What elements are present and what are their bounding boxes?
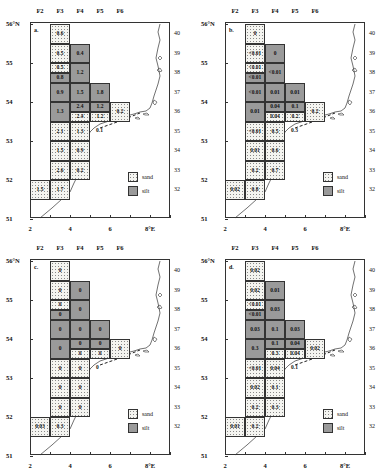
grid-cell-silt: 0 xyxy=(265,44,285,64)
grid-cell-sand: 0 xyxy=(70,349,90,359)
panel-label: c. xyxy=(34,264,38,270)
legend-silt: silt xyxy=(323,423,344,433)
grid-cell-sand: 0 xyxy=(110,339,130,359)
grid-cell-silt: <0.01 xyxy=(245,83,265,103)
grid-cell-sand: 0.3 xyxy=(50,417,70,437)
legend-sand: sand xyxy=(128,172,153,182)
grid-cell-sand: 2.6 xyxy=(50,161,70,181)
grid-cell-sand: 0.2 xyxy=(70,161,90,181)
grid-cell-sand: 0.2 xyxy=(110,102,130,122)
cell-value: 0.3 xyxy=(291,128,298,134)
grid-cell-silt: 0.03 xyxy=(285,320,305,340)
grid-cell-sand: 0.04 xyxy=(265,359,285,379)
cell-value: 0.1 xyxy=(291,365,298,371)
grid-cell-sand: 0.02 xyxy=(245,281,265,301)
grid-cell-silt: 0 xyxy=(50,339,70,359)
grid-cell-sand: 2.1 xyxy=(50,122,70,142)
grid-cell-sand: 0 xyxy=(50,359,70,379)
panel-label: a. xyxy=(34,27,39,33)
silt-swatch xyxy=(128,423,138,433)
grid-cell-silt: 0 xyxy=(50,320,70,340)
grid-cell-silt: <0.01 xyxy=(245,310,265,320)
grid-cell-sand: 0.01 xyxy=(245,141,265,161)
sand-swatch xyxy=(128,409,138,419)
grid-cell-sand: <0.01 xyxy=(245,63,265,73)
legend-silt: silt xyxy=(323,186,344,196)
grid-cell-silt: 0.04 xyxy=(265,102,285,112)
grid-cell-sand: 1.5 xyxy=(50,141,70,161)
grid-cell-sand: <0.01 xyxy=(245,122,265,142)
panel-label: b. xyxy=(229,27,234,33)
grid-cell-sand: 0.3 xyxy=(265,398,285,418)
legend-sand: sand xyxy=(128,409,153,419)
grid-cell-sand: <0.01 xyxy=(245,44,265,64)
grid-cell-sand: 0.02 xyxy=(305,339,325,359)
grid-cell-sand: 0.1 xyxy=(265,378,285,398)
grid-cell-sand: 0 xyxy=(70,378,90,398)
legend-sand-label: sand xyxy=(142,174,153,180)
grid-cell-silt: 0.01 xyxy=(285,83,305,103)
grid-cell-sand: 0 xyxy=(50,398,70,418)
grid-cell-sand: 0 xyxy=(50,281,70,301)
legend-silt-label: silt xyxy=(142,425,149,431)
grid-cell-silt: 0.1 xyxy=(265,320,285,340)
grid-cell-silt: 1.8 xyxy=(90,83,110,103)
grid-cell-silt: 0 xyxy=(70,300,90,320)
grid-cell-sand: 0.6 xyxy=(265,141,285,161)
map-panel-d: F2F3F4F5F656°N55545352514039383736353433… xyxy=(195,237,390,474)
grid-cell-sand: <0.01 xyxy=(245,300,265,310)
grid-cell-silt: 0.01 xyxy=(265,281,285,301)
grid-cell-silt: 0.03 xyxy=(265,300,285,320)
grid-cell-silt: 0.3 xyxy=(245,339,265,359)
grid-cell-silt: 0 xyxy=(90,339,110,349)
sand-swatch xyxy=(323,172,333,182)
grid-cell-sand: 0.6 xyxy=(50,24,70,44)
silt-swatch xyxy=(323,186,333,196)
grid-cell-sand: 1.2 xyxy=(90,112,110,122)
grid-cell-sand: 1.5 xyxy=(30,180,50,200)
grid-cell-sand: 0 xyxy=(70,398,90,418)
map-panel-c: F2F3F4F5F656°N55545352514039383736353433… xyxy=(0,237,195,474)
grid-cell-silt: <0.01 xyxy=(245,73,265,83)
grid-cell-sand: 0.02 xyxy=(245,378,265,398)
grid-cell-silt: 1.2 xyxy=(90,102,110,112)
panel-label: d. xyxy=(229,264,234,270)
grid-cell-sand: 0.2 xyxy=(305,102,325,122)
grid-cell-sand: <0.01 xyxy=(245,359,265,379)
legend-sand-label: sand xyxy=(142,411,153,417)
grid-cell-silt: 1.3 xyxy=(50,102,70,122)
grid-cell-silt: 0.1 xyxy=(265,339,285,349)
grid-cell-silt: 0.9 xyxy=(50,83,70,103)
grid-cell-sand: 0 xyxy=(90,349,110,359)
grid-cell-silt: 0 xyxy=(90,320,110,340)
sand-swatch xyxy=(323,409,333,419)
grid-cell-silt: 0.01 xyxy=(245,102,265,122)
grid-cell-sand: 1.7 xyxy=(50,180,70,200)
grid-cell-sand: 0.3 xyxy=(265,349,285,359)
grid-cell-silt: 0.4 xyxy=(70,44,90,64)
grid-cell-sand: 0.7 xyxy=(265,161,285,181)
sand-swatch xyxy=(128,172,138,182)
grid-cell-sand: 0.04 xyxy=(265,112,285,122)
legend-silt-label: silt xyxy=(142,188,149,194)
grid-cell-silt: 2.4 xyxy=(70,102,90,112)
grid-cell-sand: 0.02 xyxy=(245,261,265,281)
grid-cell-sand: 0.5 xyxy=(265,122,285,142)
legend-silt-label: silt xyxy=(337,188,344,194)
grid-cell-silt: 0 xyxy=(70,339,90,349)
grid-cell-sand: 0 xyxy=(245,24,265,44)
grid-cell-silt: 0.8 xyxy=(50,73,70,83)
cell-value: 0.1 xyxy=(96,128,103,134)
cell-value: 0 xyxy=(96,365,99,371)
grid-cell-silt: <0.01 xyxy=(265,63,285,83)
silt-swatch xyxy=(323,423,333,433)
grid-cell-sand: 0 xyxy=(50,378,70,398)
grid-cell-sand: 0.5 xyxy=(50,44,70,64)
legend-sand-label: sand xyxy=(337,411,348,417)
grid-cell-sand: 0.02 xyxy=(225,180,245,200)
map-panel-b: F2F3F4F5F656°N55545352514039383736353433… xyxy=(195,0,390,237)
legend-silt: silt xyxy=(128,423,149,433)
grid-cell-sand: 2.4 xyxy=(70,112,90,122)
grid-cell-silt: 0.04 xyxy=(285,339,305,349)
grid-cell-sand: 0.2 xyxy=(245,417,265,437)
